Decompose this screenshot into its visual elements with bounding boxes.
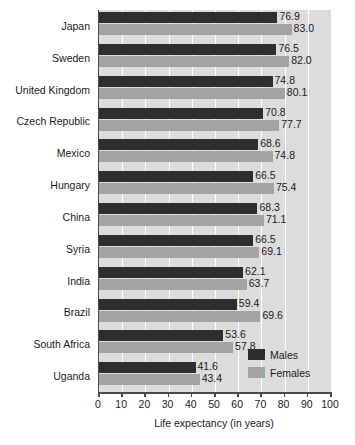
bar-males: [99, 139, 258, 150]
x-axis-tick: [237, 392, 239, 397]
category-label: Mexico: [57, 147, 90, 159]
bar-row: 66.575.4: [99, 169, 331, 201]
bar-value-males: 74.8: [273, 75, 295, 86]
x-axis-tick: [330, 392, 332, 397]
x-axis-tick-label: 80: [278, 398, 290, 411]
bar-females: [99, 247, 259, 258]
bar-males: [99, 12, 277, 23]
x-axis-tick-label: 90: [301, 398, 313, 411]
bar-females: [99, 88, 285, 99]
bar-males: [99, 330, 223, 341]
gridline: [331, 10, 332, 392]
x-axis-tick: [307, 392, 309, 397]
bar-value-females: 83.0: [292, 23, 314, 34]
bar-row: 62.163.7: [99, 265, 331, 297]
bar-value-females: 80.1: [285, 87, 307, 98]
x-axis-tick-labels: 0102030405060708090100: [98, 398, 330, 412]
bar-row: 66.569.1: [99, 233, 331, 265]
bar-row: 68.674.8: [99, 137, 331, 169]
bar-value-males: 53.6: [223, 329, 245, 340]
bar-value-females: 69.1: [259, 246, 281, 257]
bar-value-females: 75.4: [274, 182, 296, 193]
bar-males: [99, 267, 243, 278]
bar-males: [99, 203, 257, 214]
bar-row: 68.371.1: [99, 201, 331, 233]
x-axis-tick-label: 0: [95, 398, 101, 411]
bar-value-males: 70.8: [263, 107, 285, 118]
bar-value-males: 62.1: [243, 266, 265, 277]
bar-females: [99, 56, 289, 67]
category-label: Syria: [66, 243, 90, 255]
x-axis-tick-label: 20: [139, 398, 151, 411]
bar-value-females: 82.0: [289, 55, 311, 66]
bar-value-females: 63.7: [247, 278, 269, 289]
bar-males: [99, 108, 263, 119]
legend-swatch-females-icon: [248, 367, 265, 378]
category-label: Czech Republic: [16, 115, 90, 127]
bar-value-males: 66.5: [253, 170, 275, 181]
category-label: India: [67, 275, 90, 287]
bar-value-females: 77.7: [279, 119, 301, 130]
bar-females: [99, 24, 292, 35]
x-axis-tick: [284, 392, 286, 397]
x-axis-tick: [168, 392, 170, 397]
bar-value-males: 76.5: [276, 43, 298, 54]
x-axis-tick: [98, 392, 100, 397]
bar-value-males: 76.9: [277, 11, 299, 22]
bar-males: [99, 235, 253, 246]
bar-females: [99, 279, 247, 290]
bar-value-males: 66.5: [253, 234, 275, 245]
x-axis-tick-label: 10: [115, 398, 127, 411]
category-label: Brazil: [64, 306, 90, 318]
bar-value-females: 74.8: [273, 150, 295, 161]
chart-legend: Males Females: [248, 347, 310, 383]
plot-area: 76.983.076.582.074.880.170.877.768.674.8…: [98, 10, 331, 392]
x-axis-tick-label: 40: [185, 398, 197, 411]
x-axis-tick: [260, 392, 262, 397]
legend-label-males: Males: [270, 349, 298, 361]
bar-row: 70.877.7: [99, 106, 331, 138]
bar-value-males: 41.6: [196, 361, 218, 372]
x-axis-tick: [144, 392, 146, 397]
bar-value-males: 59.4: [237, 298, 259, 309]
legend-label-females: Females: [270, 367, 310, 379]
bar-row: 74.880.1: [99, 74, 331, 106]
bar-rows: 76.983.076.582.074.880.170.877.768.674.8…: [99, 10, 331, 392]
bar-row: 76.983.0: [99, 10, 331, 42]
x-axis-tick-label: 60: [231, 398, 243, 411]
bar-females: [99, 215, 264, 226]
category-label: Uganda: [53, 370, 90, 382]
legend-item-females: Females: [248, 365, 310, 380]
bar-females: [99, 151, 273, 162]
category-label: China: [63, 211, 90, 223]
bar-row: 59.469.6: [99, 297, 331, 329]
bar-females: [99, 120, 279, 131]
bar-value-females: 69.6: [260, 310, 282, 321]
life-expectancy-bar-chart: JapanSwedenUnited KingdomCzech RepublicM…: [0, 0, 355, 445]
bar-males: [99, 76, 273, 87]
x-axis-tick-label: 30: [162, 398, 174, 411]
bar-value-females: 71.1: [264, 214, 286, 225]
bar-females: [99, 374, 200, 385]
bar-males: [99, 171, 253, 182]
bar-value-males: 68.6: [258, 138, 280, 149]
x-axis-tick: [191, 392, 193, 397]
category-label: Sweden: [52, 52, 90, 64]
bar-females: [99, 311, 260, 322]
x-axis-title: Life expectancy (in years): [98, 417, 330, 429]
x-axis-tick-label: 70: [255, 398, 267, 411]
x-axis-ticks: [98, 392, 330, 397]
legend-item-males: Males: [248, 347, 310, 362]
category-label: Japan: [61, 20, 90, 32]
legend-swatch-males-icon: [248, 349, 265, 360]
bar-males: [99, 362, 196, 373]
x-axis-tick-label: 50: [208, 398, 220, 411]
bar-males: [99, 44, 276, 55]
category-label: South Africa: [33, 338, 90, 350]
x-axis-tick: [121, 392, 123, 397]
x-axis-tick-label: 100: [321, 398, 339, 411]
category-label: United Kingdom: [15, 84, 90, 96]
bar-females: [99, 183, 274, 194]
bar-value-females: 43.4: [200, 373, 222, 384]
bar-row: 76.582.0: [99, 42, 331, 74]
